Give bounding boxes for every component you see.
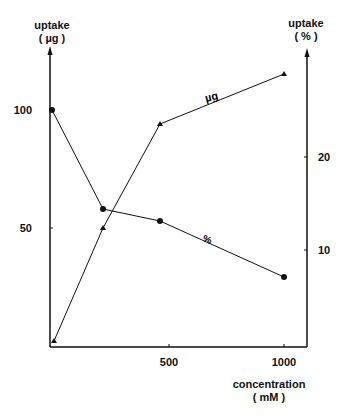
right-axis-unit: ( % ) xyxy=(294,30,318,42)
series-ug-label: µg xyxy=(204,89,220,104)
series-ug-line xyxy=(54,74,284,341)
dual-axis-line-chart: uptake ( µg ) uptake ( % ) concentration… xyxy=(0,0,352,419)
y-right-tick-10: 10 xyxy=(318,244,330,256)
x-axis-unit: ( mM ) xyxy=(253,391,286,403)
left-axis-title: uptake xyxy=(34,19,69,31)
triangle-marker-icon xyxy=(51,338,57,343)
y-left-tick-100: 100 xyxy=(14,104,32,116)
series-ug-markers xyxy=(51,71,287,343)
circle-marker-icon xyxy=(281,274,287,280)
circle-marker-icon xyxy=(157,218,163,224)
left-axis-arrow-icon xyxy=(48,46,53,55)
right-axis-title: uptake xyxy=(288,17,323,29)
x-axis-title: concentration xyxy=(233,378,306,390)
x-tick-500: 500 xyxy=(160,356,178,368)
series-percent-line xyxy=(52,110,284,277)
circle-marker-icon xyxy=(49,107,55,113)
y-right-tick-20: 20 xyxy=(318,151,330,163)
left-axis-unit: ( µg ) xyxy=(39,32,66,44)
triangle-marker-icon xyxy=(100,225,106,230)
series-percent-markers xyxy=(49,107,287,280)
x-tick-1000: 1000 xyxy=(272,356,296,368)
circle-marker-icon xyxy=(100,206,106,212)
triangle-marker-icon xyxy=(281,71,287,76)
right-axis-arrow-icon xyxy=(305,48,310,57)
y-left-tick-50: 50 xyxy=(20,222,32,234)
